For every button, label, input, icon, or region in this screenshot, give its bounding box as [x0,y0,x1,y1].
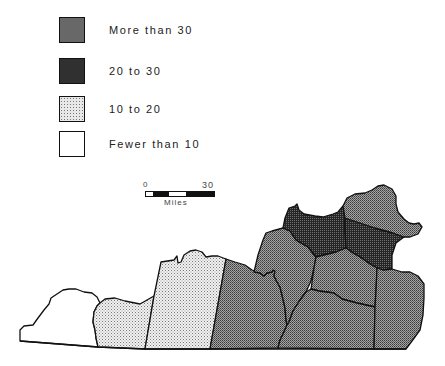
county-west-2 [93,296,154,349]
county-east [374,268,424,349]
choropleth-map [0,0,445,366]
county-west-1 [20,289,100,347]
